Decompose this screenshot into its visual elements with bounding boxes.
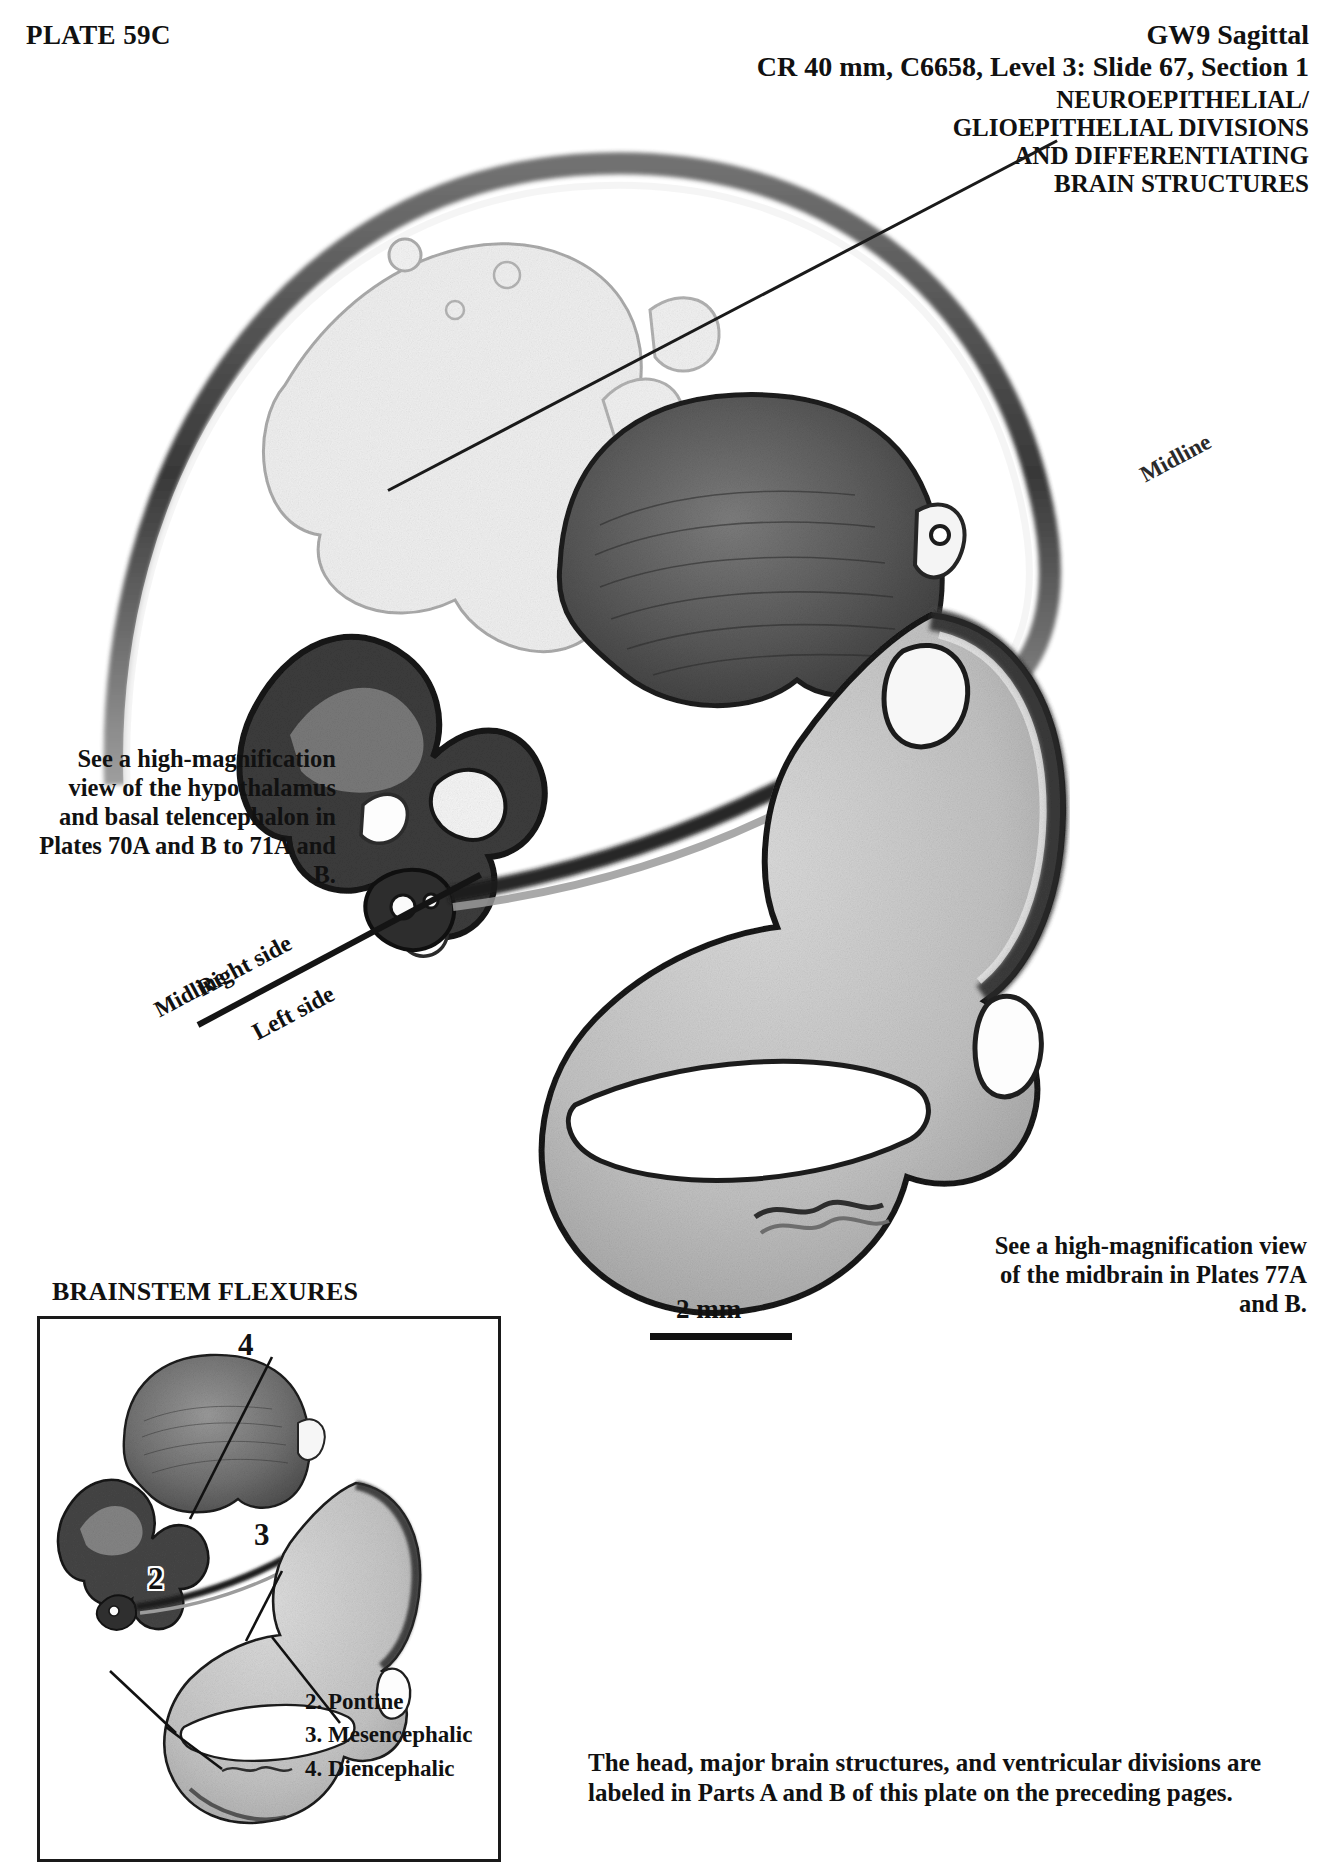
midline-leader-line bbox=[387, 139, 1057, 491]
note-midbrain: See a high-magnification view of the mid… bbox=[977, 1232, 1307, 1319]
header-line-subject: NEUROEPITHELIAL/ GLIOEPITHELIAL DIVISION… bbox=[757, 86, 1309, 198]
note-parts-ab: The head, major brain structures, and ve… bbox=[588, 1748, 1318, 1808]
midline-label-top: Midline bbox=[1136, 429, 1216, 488]
inset-legend-item-2: 2. Pontine bbox=[305, 1685, 472, 1718]
header-line-section: CR 40 mm, C6658, Level 3: Slide 67, Sect… bbox=[757, 52, 1309, 82]
header-line-specimen: GW9 Sagittal bbox=[757, 20, 1309, 50]
scale-bar-rule bbox=[650, 1333, 792, 1340]
right-side-label: Right side bbox=[192, 930, 296, 1002]
plate-page: PLATE 59C GW9 Sagittal CR 40 mm, C6658, … bbox=[0, 0, 1329, 1874]
inset-legend-item-4: 4. Diencephalic bbox=[305, 1752, 472, 1785]
midline-leader-line-lower bbox=[197, 872, 482, 1028]
header-block: GW9 Sagittal CR 40 mm, C6658, Level 3: S… bbox=[757, 20, 1309, 198]
inset-legend-item-3: 3. Mesencephalic bbox=[305, 1718, 472, 1751]
inset-title: BRAINSTEM FLEXURES bbox=[52, 1277, 358, 1307]
inset-marker-2: 2 bbox=[148, 1561, 164, 1597]
page-title: PLATE 59C bbox=[26, 20, 171, 51]
note-hypothalamus: See a high-magnification view of the hyp… bbox=[28, 745, 336, 890]
inset-legend: 2. Pontine 3. Mesencephalic 4. Diencepha… bbox=[305, 1685, 472, 1785]
inset-marker-4: 4 bbox=[238, 1327, 254, 1363]
inset-marker-3: 3 bbox=[254, 1517, 270, 1553]
scale-bar-label: 2 mm bbox=[676, 1294, 741, 1325]
